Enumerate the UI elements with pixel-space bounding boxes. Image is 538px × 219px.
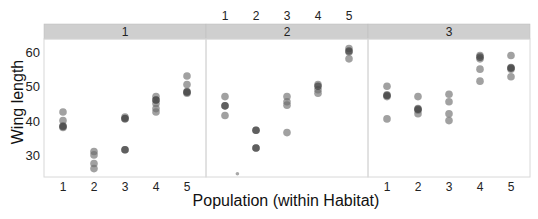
data-point xyxy=(507,52,515,60)
x-tick-label: 4 xyxy=(153,180,160,194)
x-tick-label: 1 xyxy=(222,9,229,23)
data-point-overlap xyxy=(507,64,515,72)
x-tick-label: 5 xyxy=(184,180,191,194)
data-point xyxy=(283,129,291,137)
data-point xyxy=(314,89,322,97)
data-point-overlap xyxy=(121,146,129,154)
data-point xyxy=(476,65,484,73)
panel-1 xyxy=(44,39,206,177)
data-point-small xyxy=(236,172,240,176)
x-tick-label: 5 xyxy=(508,180,515,194)
data-point xyxy=(345,55,353,63)
data-point xyxy=(414,93,422,101)
y-tick-label: 40 xyxy=(26,114,40,129)
x-tick-label: 5 xyxy=(346,9,353,23)
data-point xyxy=(445,90,453,98)
x-tick-label: 4 xyxy=(477,180,484,194)
panel-3 xyxy=(368,39,530,177)
data-point-overlap xyxy=(476,53,484,61)
x-tick-label: 2 xyxy=(91,180,98,194)
strip-label: 2 xyxy=(284,25,291,39)
chart: 123 30405060 123451234512345 Population … xyxy=(0,0,538,219)
data-point-overlap xyxy=(314,83,322,91)
data-point xyxy=(59,108,67,116)
data-point-overlap xyxy=(252,126,260,134)
strip-label: 3 xyxy=(446,25,453,39)
y-axis: 30405060 xyxy=(26,45,40,163)
x-tick-label: 2 xyxy=(415,180,422,194)
data-point xyxy=(445,98,453,106)
data-point-overlap xyxy=(345,47,353,55)
data-point xyxy=(90,151,98,159)
y-tick-label: 50 xyxy=(26,79,40,94)
y-tick-label: 30 xyxy=(26,148,40,163)
data-point-overlap xyxy=(383,92,391,100)
strip-label: 1 xyxy=(122,25,129,39)
data-point xyxy=(183,72,191,80)
data-point xyxy=(183,81,191,89)
data-point-overlap xyxy=(414,105,422,113)
data-point xyxy=(221,112,229,120)
data-point-overlap xyxy=(221,102,229,110)
data-point-overlap xyxy=(252,144,260,152)
data-point xyxy=(383,115,391,123)
x-tick-label: 3 xyxy=(122,180,129,194)
x-tick-label: 4 xyxy=(315,9,322,23)
x-tick-label: 1 xyxy=(384,180,391,194)
data-point xyxy=(283,101,291,109)
data-point xyxy=(476,77,484,85)
y-axis-title: Wing length xyxy=(9,60,26,145)
y-tick-label: 60 xyxy=(26,45,40,60)
data-point-overlap xyxy=(121,115,129,123)
data-point xyxy=(507,73,515,81)
x-tick-label: 1 xyxy=(60,180,67,194)
data-point xyxy=(445,117,453,125)
data-point xyxy=(90,165,98,173)
data-point xyxy=(152,108,160,116)
data-point-overlap xyxy=(183,88,191,96)
data-point xyxy=(221,93,229,101)
points xyxy=(59,45,515,176)
data-point-overlap xyxy=(152,96,160,104)
strips: 123 xyxy=(44,24,530,39)
data-point xyxy=(383,83,391,91)
data-point-overlap xyxy=(59,123,67,131)
x-tick-label: 2 xyxy=(253,9,260,23)
data-point xyxy=(445,110,453,118)
x-tick-label: 3 xyxy=(446,180,453,194)
x-axis-title: Population (within Habitat) xyxy=(193,192,380,209)
x-tick-label: 3 xyxy=(284,9,291,23)
